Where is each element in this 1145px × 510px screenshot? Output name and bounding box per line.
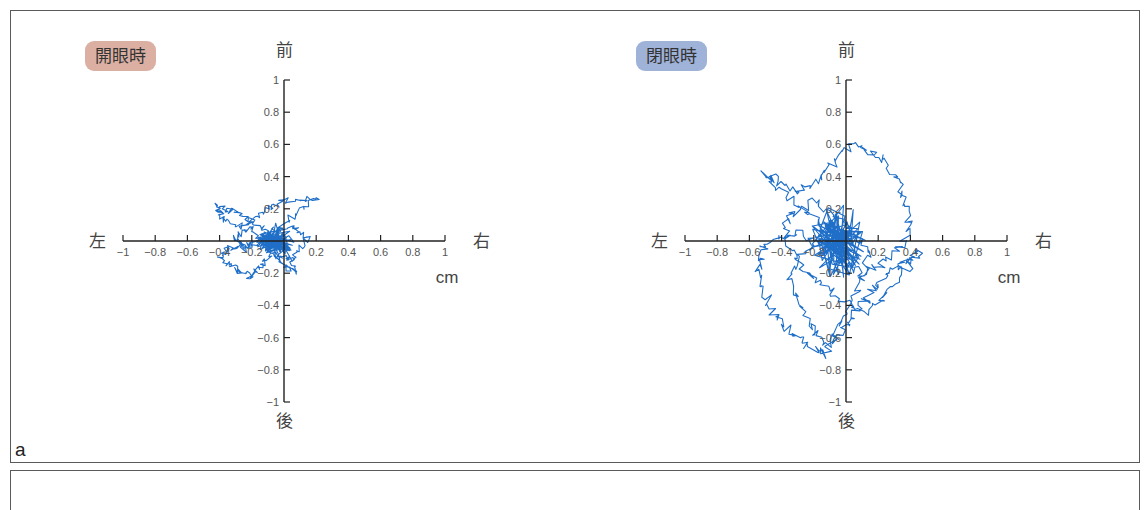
y-tick-label: −0.8 bbox=[819, 364, 841, 376]
x-tick-label: 1 bbox=[1004, 246, 1010, 258]
right-label: 右 bbox=[1035, 231, 1052, 251]
y-tick-label: −1 bbox=[828, 396, 841, 408]
y-tick-label: −0.6 bbox=[819, 332, 841, 344]
y-tick-label: 1 bbox=[835, 74, 841, 86]
x-tick-label: 0.4 bbox=[903, 246, 918, 258]
x-tick-label: −0.6 bbox=[739, 246, 761, 258]
y-tick-label: −0.2 bbox=[819, 267, 841, 279]
left-label: 左 bbox=[651, 231, 668, 251]
y-tick-label: 0.6 bbox=[826, 138, 841, 150]
y-tick-label: 0.4 bbox=[826, 171, 841, 183]
x-tick-label: 0.8 bbox=[967, 246, 982, 258]
x-tick-label: 0.2 bbox=[871, 246, 886, 258]
y-tick-label: 0.2 bbox=[826, 203, 841, 215]
back-label: 後 bbox=[838, 411, 855, 431]
x-tick-label: −0.4 bbox=[771, 246, 793, 258]
unit-label: cm bbox=[998, 268, 1021, 287]
x-tick-label: −1 bbox=[679, 246, 692, 258]
y-tick-label: −0.4 bbox=[819, 299, 841, 311]
front-label: 前 bbox=[838, 40, 855, 60]
x-tick-label: 0.6 bbox=[935, 246, 950, 258]
y-tick-label: 0.8 bbox=[826, 106, 841, 118]
x-tick-label: −0.2 bbox=[803, 246, 825, 258]
x-tick-label: −0.8 bbox=[706, 246, 728, 258]
